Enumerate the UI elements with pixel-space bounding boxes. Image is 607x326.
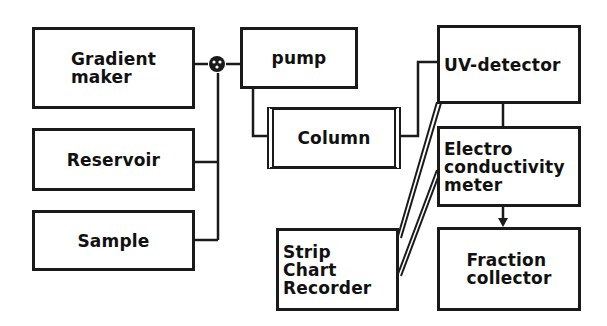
reservoir-label: Reservoir xyxy=(67,151,160,169)
reservoir-box: Reservoir xyxy=(32,128,195,191)
fraction-collector-label: Fraction collector xyxy=(466,251,551,287)
strip-chart-recorder-box: Strip Chart Recorder xyxy=(276,228,399,311)
gradient-maker-box: Gradient maker xyxy=(32,27,195,109)
pump-label: pump xyxy=(272,49,327,67)
column-box: Column xyxy=(267,107,401,169)
uv-detector-box: UV-detector xyxy=(437,25,581,104)
column-label: Column xyxy=(297,129,370,147)
uv-detector-label: UV-detector xyxy=(444,56,561,74)
gradient-maker-label: Gradient maker xyxy=(71,50,156,86)
sample-label: Sample xyxy=(77,232,149,250)
conductivity-meter-label: Electro conductivity meter xyxy=(444,140,565,194)
mixer-valve-icon xyxy=(209,56,225,72)
strip-chart-recorder-label: Strip Chart Recorder xyxy=(283,243,371,297)
pump-box: pump xyxy=(240,27,358,89)
fraction-collector-box: Fraction collector xyxy=(437,227,581,311)
conductivity-meter-box: Electro conductivity meter xyxy=(437,126,581,207)
sample-box: Sample xyxy=(32,210,195,271)
